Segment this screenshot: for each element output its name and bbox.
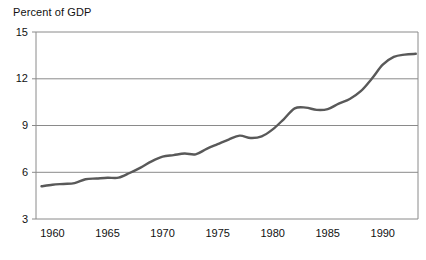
y-axis-tick-label: 3 [2, 214, 28, 225]
x-axis-tick-label: 1990 [361, 228, 405, 239]
chart-container: Percent of GDP 3691215 19601965197019751… [0, 0, 426, 260]
ytick-marks [32, 32, 36, 219]
gridlines [36, 32, 418, 172]
x-axis-tick-label: 1970 [141, 228, 185, 239]
y-axis-tick-label: 9 [2, 120, 28, 131]
y-axis-tick-label: 6 [2, 167, 28, 178]
data-series-line [42, 54, 416, 186]
x-axis-tick-label: 1960 [31, 228, 75, 239]
x-axis-tick-label: 1975 [196, 228, 240, 239]
x-axis-tick-label: 1965 [86, 228, 130, 239]
x-axis-tick-label: 1980 [251, 228, 295, 239]
x-axis-tick-label: 1985 [306, 228, 350, 239]
chart-plot-area [0, 0, 426, 260]
y-axis-tick-label: 15 [2, 27, 28, 38]
y-axis-tick-label: 12 [2, 73, 28, 84]
